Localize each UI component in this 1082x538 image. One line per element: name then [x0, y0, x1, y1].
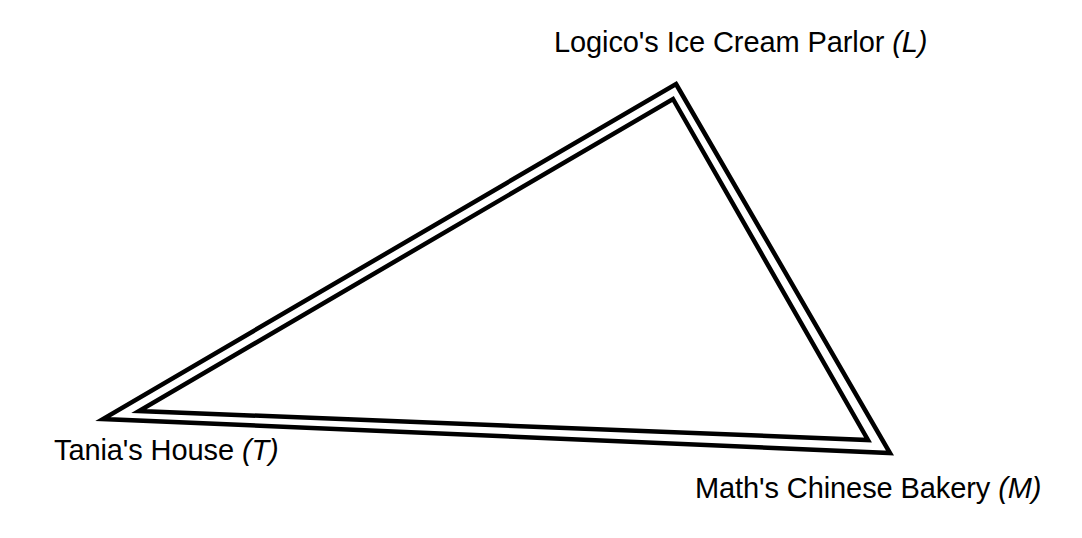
vertex-label-tania: Tania's House (T) [54, 436, 279, 465]
inner-triangle-outline [139, 99, 868, 440]
vertex-label-logico-tag: (L) [892, 26, 927, 58]
diagram-canvas: Logico's Ice Cream Parlor (L) Tania's Ho… [0, 0, 1082, 538]
vertex-label-tania-tag: (T) [242, 434, 279, 466]
vertex-label-math-tag: (M) [998, 472, 1041, 504]
vertex-label-math: Math's Chinese Bakery (M) [695, 474, 1041, 503]
vertex-label-logico-name: Logico's Ice Cream Parlor [554, 26, 884, 58]
vertex-label-logico: Logico's Ice Cream Parlor (L) [554, 28, 927, 57]
vertex-label-tania-name: Tania's House [54, 434, 234, 466]
vertex-label-math-name: Math's Chinese Bakery [695, 472, 990, 504]
